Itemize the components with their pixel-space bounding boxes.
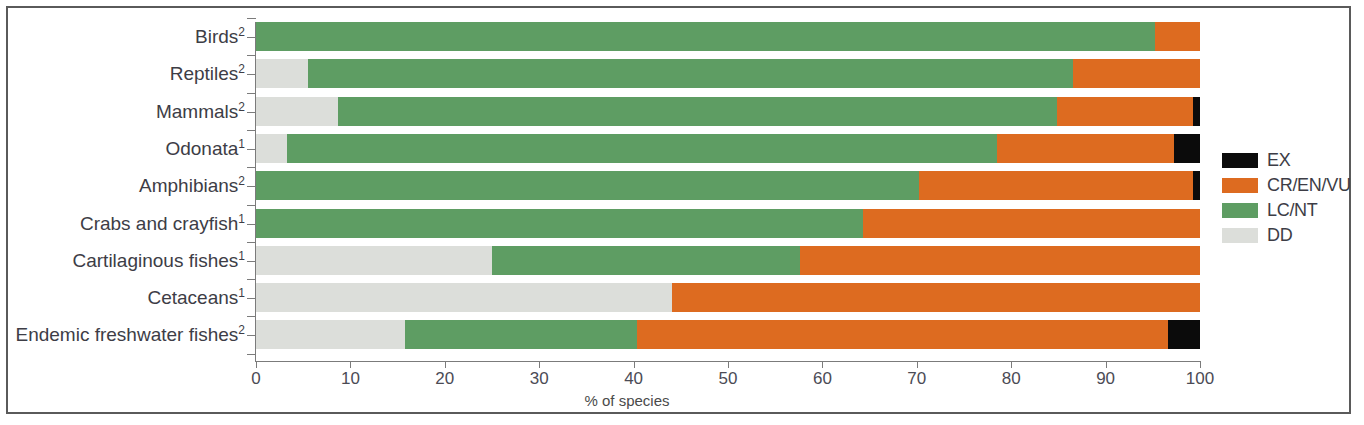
plot-area: [256, 22, 1200, 358]
y-axis-major-tick: [247, 354, 256, 355]
category-footnote: 1: [238, 249, 245, 263]
bar-segment-ex[interactable]: [1193, 171, 1200, 200]
y-axis-major-tick: [247, 93, 256, 94]
y-axis-category-label: Odonata1: [165, 138, 245, 158]
y-axis-category-label: Endemic freshwater fishes2: [15, 324, 245, 344]
y-axis-major-tick: [247, 167, 256, 168]
bar-segment-ex[interactable]: [1174, 134, 1199, 163]
legend-swatch-dd: [1222, 228, 1258, 243]
category-name: Amphibians: [139, 175, 238, 196]
bar-segment-lcnt[interactable]: [287, 134, 997, 163]
x-axis-tick-label: 40: [624, 369, 643, 389]
bar-segment-dd[interactable]: [256, 97, 338, 126]
x-axis-tick: [445, 361, 446, 368]
bar-segment-lcnt[interactable]: [256, 171, 919, 200]
bar-segment-lcnt[interactable]: [405, 320, 637, 349]
y-axis-category-label: Amphibians2: [139, 175, 245, 195]
bar-segment-crenvu[interactable]: [863, 209, 1200, 238]
bar-segment-crenvu[interactable]: [1073, 59, 1199, 88]
legend-swatch-lcnt: [1222, 203, 1258, 218]
category-footnote: 2: [238, 25, 245, 39]
bar-segment-ex[interactable]: [1168, 320, 1200, 349]
category-name: Cartilaginous fishes: [73, 250, 239, 271]
x-axis-tick: [350, 361, 351, 368]
x-axis-tick: [539, 361, 540, 368]
bar-segment-dd[interactable]: [256, 59, 308, 88]
bar-segment-crenvu[interactable]: [1155, 22, 1200, 51]
legend-item-dd[interactable]: DD: [1222, 223, 1351, 248]
bar-row[interactable]: [256, 134, 1200, 163]
stacked-bar[interactable]: [256, 22, 1200, 51]
x-axis-tick-label: 0: [251, 369, 260, 389]
chart-page: 0102030405060708090100 % of species EXCR…: [0, 0, 1364, 425]
bar-row[interactable]: [256, 59, 1200, 88]
stacked-bar[interactable]: [256, 246, 1200, 275]
bar-segment-crenvu[interactable]: [1057, 97, 1194, 126]
legend-label-lcnt: LC/NT: [1267, 200, 1318, 221]
stacked-bar[interactable]: [256, 59, 1200, 88]
bar-segment-lcnt[interactable]: [256, 209, 863, 238]
x-axis-tick: [634, 361, 635, 368]
stacked-bar[interactable]: [256, 97, 1200, 126]
y-axis-major-tick: [247, 130, 256, 131]
stacked-bar[interactable]: [256, 283, 1200, 312]
category-name: Mammals: [156, 101, 238, 122]
y-axis-category-label: Reptiles2: [170, 63, 245, 83]
bar-segment-crenvu[interactable]: [672, 283, 1200, 312]
category-name: Birds: [195, 26, 238, 47]
y-axis-major-tick: [247, 316, 256, 317]
legend-swatch-crenvu: [1222, 178, 1258, 193]
bar-segment-lcnt[interactable]: [308, 59, 1074, 88]
y-axis-tick: [247, 224, 256, 225]
bar-segment-dd[interactable]: [256, 134, 287, 163]
bar-row[interactable]: [256, 209, 1200, 238]
bar-row[interactable]: [256, 22, 1200, 51]
category-name: Cetaceans: [147, 287, 238, 308]
category-footnote: 2: [238, 323, 245, 337]
legend-item-ex[interactable]: EX: [1222, 148, 1351, 173]
legend-label-crenvu: CR/EN/VU: [1267, 175, 1351, 196]
bar-row[interactable]: [256, 246, 1200, 275]
x-axis-tick-label: 10: [341, 369, 360, 389]
x-axis-tick-label: 50: [719, 369, 738, 389]
bar-segment-lcnt[interactable]: [492, 246, 800, 275]
bar-segment-dd[interactable]: [256, 283, 672, 312]
x-axis-tick: [1200, 361, 1201, 368]
bar-segment-ex[interactable]: [1193, 97, 1200, 126]
y-axis-tick: [247, 112, 256, 113]
bar-row[interactable]: [256, 97, 1200, 126]
category-name: Reptiles: [170, 63, 239, 84]
bar-segment-crenvu[interactable]: [637, 320, 1168, 349]
bar-row[interactable]: [256, 171, 1200, 200]
x-axis-tick-label: 20: [435, 369, 454, 389]
legend-label-dd: DD: [1267, 225, 1292, 246]
x-axis-tick: [256, 361, 257, 368]
y-axis-category-label: Cetaceans1: [147, 287, 245, 307]
y-axis-major-tick: [247, 18, 256, 19]
stacked-bar[interactable]: [256, 134, 1200, 163]
bar-row[interactable]: [256, 320, 1200, 349]
category-footnote: 2: [238, 100, 245, 114]
legend-label-ex: EX: [1267, 150, 1290, 171]
x-axis-tick: [1106, 361, 1107, 368]
stacked-bar[interactable]: [256, 171, 1200, 200]
legend-item-lcnt[interactable]: LC/NT: [1222, 198, 1351, 223]
bar-segment-crenvu[interactable]: [997, 134, 1174, 163]
x-axis-tick: [917, 361, 918, 368]
stacked-bar[interactable]: [256, 320, 1200, 349]
bar-segment-lcnt[interactable]: [256, 22, 1155, 51]
bar-segment-crenvu[interactable]: [919, 171, 1194, 200]
bar-segment-dd[interactable]: [256, 320, 405, 349]
bar-segment-crenvu[interactable]: [800, 246, 1200, 275]
y-axis-major-tick: [247, 279, 256, 280]
legend-item-crenvu[interactable]: CR/EN/VU: [1222, 173, 1351, 198]
y-axis-category-label: Crabs and crayfish1: [80, 213, 245, 233]
y-axis-major-tick: [247, 55, 256, 56]
x-axis-tick-label: 80: [1002, 369, 1021, 389]
x-axis-tick-label: 100: [1186, 369, 1214, 389]
bar-segment-lcnt[interactable]: [338, 97, 1056, 126]
bar-segment-dd[interactable]: [256, 246, 492, 275]
bar-row[interactable]: [256, 283, 1200, 312]
stacked-bar[interactable]: [256, 209, 1200, 238]
category-footnote: 1: [238, 212, 245, 226]
